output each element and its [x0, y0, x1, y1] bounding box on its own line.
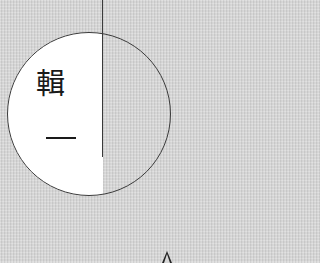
arrow-up-icon — [162, 251, 172, 263]
circle-outline — [7, 32, 171, 196]
circle-label-bottom — [46, 137, 76, 139]
circle-label-top: 輯 — [36, 70, 65, 99]
vertical-divider-line — [102, 0, 103, 157]
diagram-scene: 輯 — [0, 0, 192, 262]
